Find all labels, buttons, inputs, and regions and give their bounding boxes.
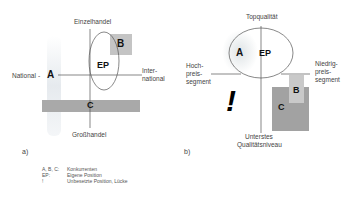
competitor-a-region (47, 36, 61, 136)
own-position-label-a: EP (97, 60, 109, 70)
legend-key: ! (42, 178, 67, 184)
axis-label-unterstes-1: Unterstes (245, 133, 273, 141)
axis-label-unterstes-2: Qualitätsniveau (237, 141, 282, 149)
axis-label-hochpreis-3: segment (186, 78, 211, 86)
competitor-label-a-b: A (236, 47, 243, 58)
axis-label-international-2: national (142, 75, 165, 83)
axis-label-einzelhandel: Einzelhandel (74, 18, 111, 26)
competitor-label-b-b: B (293, 85, 300, 95)
caption-b: b) (184, 148, 190, 156)
axis-label-national: National (12, 72, 36, 80)
legend-value: Unbesetzte Position, Lücke (67, 178, 128, 184)
axis-label-hochpreis-1: Hoch- (186, 62, 203, 70)
axis-label-grosshandel: Großhandel (72, 131, 106, 139)
axis-label-niedrigpreis-3: segment (315, 76, 340, 84)
gap-mark: ! (226, 86, 236, 116)
caption-a: a) (22, 148, 28, 156)
competitor-label-b: B (117, 38, 124, 49)
competitor-label-c-b: C (278, 102, 285, 112)
axis-label-hochpreis-2: preis- (186, 70, 202, 78)
competitor-label-c: C (87, 100, 94, 110)
axis-label-niedrigpreis-2: preis- (315, 68, 331, 76)
legend: A, B, C:Konkurrenten EP:Eigene Position … (42, 166, 128, 184)
axis-label-international-1: Inter- (142, 67, 157, 75)
diagram-a-graphic (42, 29, 142, 136)
competitor-label-a: A (47, 69, 54, 80)
dash: - (38, 72, 40, 80)
own-position-label-b: EP (259, 48, 271, 58)
axis-label-niedrigpreis-1: Niedrig- (315, 60, 338, 68)
legend-item: !Unbesetzte Position, Lücke (42, 178, 128, 184)
axis-label-topqualitaet: Topqualität (246, 13, 277, 21)
